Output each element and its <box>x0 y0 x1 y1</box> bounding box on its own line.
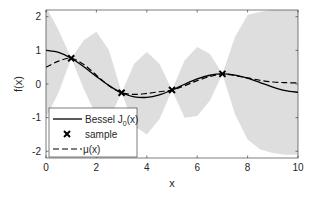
chart: 0246810 -2-1012 x f(x) Bessel J0(x) samp… <box>0 0 317 199</box>
x-tick-label: 10 <box>292 162 304 173</box>
legend-label-sample: sample <box>85 129 118 140</box>
y-tick-label: 0 <box>35 79 41 90</box>
y-tick-label: 2 <box>35 11 41 22</box>
y-tick-label: -2 <box>32 146 41 157</box>
x-tick-label: 8 <box>245 162 251 173</box>
y-tick-label: -1 <box>32 112 41 123</box>
legend-label-mu: μ(x) <box>83 144 100 155</box>
y-tick-label: 1 <box>35 45 41 56</box>
legend: Bessel J0(x) sample μ(x) <box>49 108 138 157</box>
x-axis-label: x <box>169 177 175 189</box>
y-axis-label: f(x) <box>12 76 24 92</box>
x-tick-label: 0 <box>43 162 49 173</box>
x-tick-label: 4 <box>144 162 150 173</box>
x-tick-label: 2 <box>94 162 100 173</box>
x-tick-label: 6 <box>194 162 200 173</box>
